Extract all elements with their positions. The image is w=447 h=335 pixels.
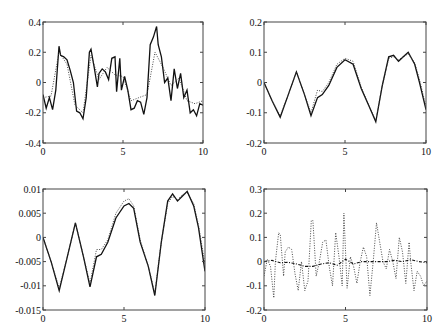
y-tick-label: -0.2 (25, 107, 41, 118)
y-tick-label: 0 (36, 232, 41, 243)
series-dotted (264, 54, 426, 121)
x-tick-label: 0 (41, 146, 46, 157)
x-tick-label: 5 (121, 146, 126, 157)
x-tick-label: 10 (200, 313, 210, 324)
y-tick-label: 0.2 (29, 47, 42, 58)
x-tick-label: 10 (422, 313, 432, 324)
y-tick-label: 0.1 (250, 47, 263, 58)
series-solid (264, 52, 426, 122)
y-tick-label: -0.01 (20, 280, 41, 291)
axes-frame (264, 189, 427, 310)
x-tick-label: 0 (262, 146, 267, 157)
y-tick-label: 0 (257, 256, 262, 267)
subplot-3: 05100.010.0050-0.005-0.01-0.015 (15, 184, 210, 325)
axes-frame (43, 189, 205, 310)
figure: 05100.40.20-0.2-0.405100.20.10-0.1-0.205… (0, 0, 447, 335)
series-solid (43, 27, 203, 119)
x-tick-label: 10 (421, 146, 431, 157)
y-tick-label: 0.2 (250, 17, 263, 28)
y-tick-label: -0.2 (246, 305, 262, 316)
x-tick-label: 5 (343, 146, 348, 157)
subplot-1: 05100.40.20-0.2-0.4 (25, 17, 208, 158)
axes-frame (264, 22, 426, 143)
subplot-4: 05100.30.20.10-0.1-0.2 (246, 184, 432, 325)
y-tick-label: 0.3 (250, 184, 263, 195)
y-tick-label: 0 (257, 77, 262, 88)
y-tick-label: 0.005 (19, 208, 42, 219)
y-tick-label: -0.2 (246, 138, 262, 149)
y-tick-label: 0.4 (29, 17, 42, 28)
x-tick-label: 0 (262, 313, 267, 324)
x-tick-label: 5 (122, 313, 127, 324)
y-tick-label: 0.1 (250, 232, 263, 243)
x-tick-label: 0 (41, 313, 46, 324)
y-tick-label: -0.1 (246, 280, 262, 291)
series-solid (43, 191, 205, 295)
subplot-2: 05100.20.10-0.1-0.2 (246, 17, 431, 158)
y-tick-label: 0.01 (24, 184, 42, 195)
y-tick-label: -0.005 (15, 256, 41, 267)
y-tick-label: 0.2 (250, 208, 263, 219)
x-tick-label: 10 (198, 146, 208, 157)
y-tick-label: -0.015 (15, 305, 41, 316)
series-dotted (43, 193, 205, 293)
series-dotted (264, 213, 427, 298)
y-tick-label: -0.4 (25, 138, 41, 149)
y-tick-label: 0 (36, 77, 41, 88)
y-tick-label: -0.1 (246, 107, 262, 118)
x-tick-label: 5 (343, 313, 348, 324)
